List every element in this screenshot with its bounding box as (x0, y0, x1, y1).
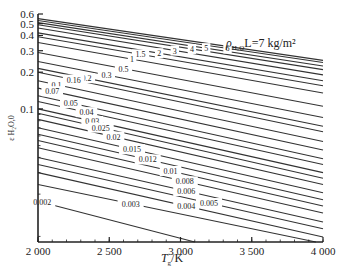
y-tick-label: 0.4 (20, 29, 34, 41)
y-tick-label: 0.3 (20, 45, 34, 57)
contour-label: 0.003 (122, 200, 140, 209)
contour-label: 0.07 (45, 87, 59, 96)
y-tick-label: 0.1 (20, 103, 34, 115)
contour-label: 0.002 (33, 198, 51, 207)
contour-label: 0.02 (107, 133, 121, 142)
x-tick-label: 2 500 (97, 245, 122, 257)
contour-label: 0.015 (123, 145, 141, 154)
contour-label: 4 (190, 45, 194, 54)
contour-label: 0.008 (176, 177, 194, 186)
annotation: ρH₂OL=7 kg/m² (225, 36, 296, 52)
contour-label: 3 (173, 47, 177, 56)
x-tick-label: 2 000 (26, 245, 51, 257)
y-axis-label: ε H₂O,0 (7, 115, 16, 141)
x-axis-label: Tg/K (161, 251, 184, 266)
contour-label: 5 (204, 44, 208, 53)
contour-label: 0.5 (119, 65, 129, 74)
contour-label: 0.16 (67, 76, 81, 85)
y-tick-label: 0.6 (20, 8, 34, 20)
contour-line (38, 201, 195, 242)
contour-label: 0.05 (64, 99, 78, 108)
contour-label: 0.012 (139, 155, 157, 164)
contour-labels: 654321.510.50.30.20.160.10.070.050.040.0… (29, 43, 231, 211)
contour-label: 0.04 (79, 108, 93, 117)
contour-label: 1 (130, 55, 134, 64)
contour-label: 2 (157, 49, 161, 58)
contour-label: 0.006 (177, 187, 195, 196)
contour-label: 1.5 (136, 50, 146, 59)
contour-label: 0.01 (164, 167, 178, 176)
contour-label: 0.025 (92, 124, 110, 133)
x-tick-label: 3 500 (239, 245, 264, 257)
y-tick-label: 0.2 (20, 66, 34, 78)
contour-label: 0.3 (101, 71, 111, 80)
x-tick-label: 4 000 (311, 245, 336, 257)
contour-label: 0.004 (177, 202, 195, 211)
contour-chart: 654321.510.50.30.20.160.10.070.050.040.0… (0, 0, 343, 266)
contour-label: 0.005 (200, 199, 218, 208)
